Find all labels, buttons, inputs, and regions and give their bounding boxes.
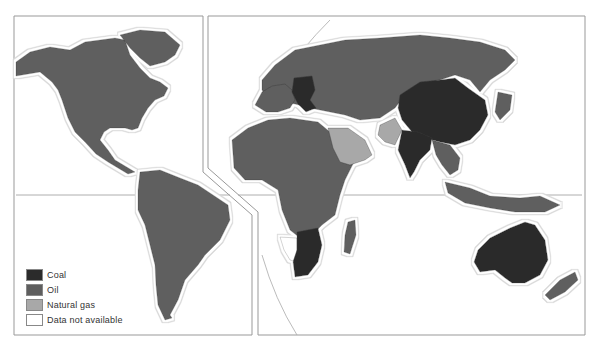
legend-label: Oil [47, 285, 59, 295]
legend-item-coal: Coal [26, 267, 123, 282]
legend-label: Natural gas [47, 300, 95, 310]
region-southern-africa[interactable] [293, 228, 322, 277]
swatch-na [26, 314, 43, 326]
swatch-gas [26, 299, 43, 311]
region-japan[interactable] [495, 92, 512, 120]
region-western-europe[interactable] [255, 84, 295, 112]
region-madagascar[interactable] [344, 220, 356, 254]
region-central-europe[interactable] [292, 76, 316, 112]
swatch-coal [26, 269, 43, 281]
region-south-america[interactable] [138, 170, 230, 320]
swatch-oil [26, 284, 43, 296]
region-india[interactable] [398, 130, 432, 178]
region-australia[interactable] [474, 222, 548, 283]
legend-item-oil: Oil [26, 282, 123, 297]
legend: Coal Oil Natural gas Data not available [26, 267, 123, 327]
legend-label: Coal [47, 270, 66, 280]
dateline-arc-bottom [262, 255, 297, 335]
region-southeast-asia[interactable] [432, 140, 460, 175]
region-iran-pakistan[interactable] [378, 118, 402, 145]
legend-item-gas: Natural gas [26, 297, 123, 312]
legend-item-na: Data not available [26, 312, 123, 327]
legend-label: Data not available [47, 315, 123, 325]
region-new-zealand[interactable] [545, 272, 578, 300]
region-indonesia[interactable] [445, 182, 560, 212]
